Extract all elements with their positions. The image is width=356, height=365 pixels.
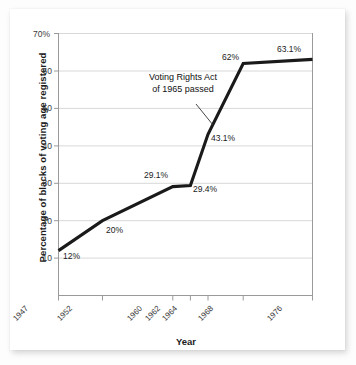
data-label-1962: 29.4%: [193, 184, 217, 194]
y-tick-marks: [54, 34, 58, 259]
data-label-1964: 43.1%: [211, 133, 235, 143]
data-label-1976: 63.1%: [277, 44, 301, 54]
data-label-1960: 29.1%: [144, 170, 168, 180]
annotation-voting-rights-act: Voting Rights Act of 1965 passed: [131, 72, 235, 95]
y-tick-label-40: 40: [20, 141, 52, 151]
y-tick-label-60: 60: [20, 66, 52, 76]
y-tick-label-50: 50: [20, 103, 52, 113]
data-label-1952: 20%: [106, 225, 123, 235]
data-label-1968: 62%: [222, 52, 239, 62]
annotation-line-1: Voting Rights Act: [131, 72, 235, 84]
annotation-line-2: of 1965 passed: [131, 84, 235, 96]
y-tick-label-20: 20: [20, 216, 52, 226]
annotation-leader-line: [196, 104, 213, 125]
x-tick-marks: [59, 296, 313, 301]
x-axis-title: Year: [58, 336, 314, 347]
y-tick-label-70: 70%: [18, 29, 50, 39]
line-chart-figure: Percentage of blacks of voting age regis…: [0, 0, 356, 365]
y-tick-label-10: 10: [20, 253, 52, 263]
chart-page: Percentage of blacks of voting age regis…: [0, 0, 356, 365]
y-tick-label-30: 30: [20, 178, 52, 188]
data-label-1947: 12%: [63, 251, 80, 261]
